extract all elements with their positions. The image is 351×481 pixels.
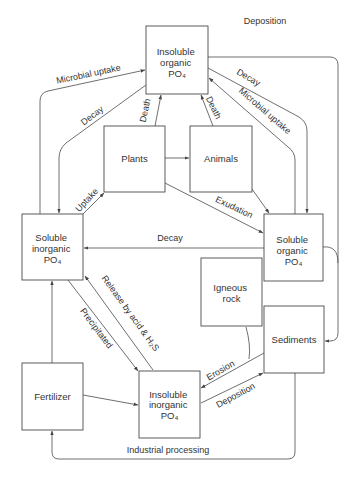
- node-soluble-inorganic-po4: Soluble inorganic PO₄: [22, 214, 83, 280]
- edge-death-plants: [155, 95, 161, 126]
- node-igneous-rock: Igneous rock: [201, 258, 262, 326]
- node-label-line: Soluble: [35, 232, 67, 243]
- node-label: Animals: [204, 153, 238, 164]
- node-label-line: inorganic: [149, 399, 188, 410]
- node-sediments: Sediments: [264, 306, 324, 373]
- label-death-animals: Death: [204, 95, 224, 121]
- label-erosion: Erosion: [205, 358, 236, 382]
- node-plants: Plants: [104, 126, 165, 192]
- edge-fertilizer-to-insoluble-inorganic: [83, 395, 138, 405]
- node-label-line: organic: [277, 245, 308, 256]
- node-label: Plants: [121, 153, 148, 164]
- node-label-line: inorganic: [32, 243, 71, 254]
- node-label: Fertilizer: [34, 391, 70, 402]
- label-decay-middle: Decay: [157, 233, 183, 243]
- node-fertilizer: Fertilizer: [22, 363, 83, 430]
- edge-precipitated: [68, 280, 138, 371]
- label-death-plants: Death: [138, 98, 153, 124]
- node-insoluble-organic-po4: Insoluble organic PO₄: [146, 26, 208, 94]
- label-deposition-bottom: Deposition: [214, 381, 256, 410]
- node-label: Sediments: [272, 334, 317, 345]
- label-deposition-top: Deposition: [244, 16, 287, 26]
- node-insoluble-inorganic-po4: Insoluble inorganic PO₄: [139, 371, 200, 438]
- node-animals: Animals: [190, 126, 252, 192]
- label-industrial-processing: Industrial processing: [127, 445, 210, 455]
- phosphorus-cycle-diagram: Insoluble organic PO₄ Plants Animals Sol…: [0, 0, 351, 481]
- node-label-line: PO₄: [168, 68, 186, 79]
- node-label-line: PO₄: [285, 256, 303, 267]
- node-label-line: PO₄: [161, 410, 179, 421]
- label-precipitated: Precipitated: [78, 306, 115, 350]
- edge-igneous-rock-erosion: [246, 327, 250, 359]
- node-soluble-organic-po4: Soluble organic PO₄: [264, 214, 323, 281]
- node-label-line: organic: [160, 57, 191, 68]
- node-label-line: PO₄: [44, 254, 62, 265]
- edge-soluble-organic-to-sediments: [323, 247, 338, 263]
- edge-animals-to-soluble-organic: [252, 189, 269, 213]
- node-label-line: Insoluble: [157, 46, 195, 57]
- node-label-line: rock: [223, 293, 241, 304]
- node-label-line: Igneous: [213, 282, 247, 293]
- node-label-line: Soluble: [276, 234, 308, 245]
- label-exudation: Exudation: [214, 194, 255, 220]
